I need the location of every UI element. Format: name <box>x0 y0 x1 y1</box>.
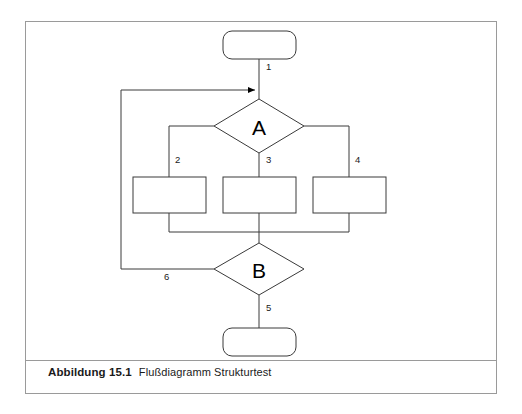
merge-right-path <box>259 213 349 232</box>
figure-frame: 1 6 A 2 3 4 <box>25 21 497 394</box>
edge-4-path <box>304 126 349 177</box>
node-decision-b-label: B <box>252 259 266 282</box>
node-decision-a-label: A <box>252 116 266 139</box>
node-process-right <box>313 177 386 213</box>
figure-caption: Abbildung 15.1Flußdiagramm Strukturtest <box>48 366 272 378</box>
edge-2-path <box>169 126 214 177</box>
node-end <box>223 328 296 356</box>
node-start <box>223 31 296 59</box>
figure-caption-text: Flußdiagramm Strukturtest <box>139 366 272 378</box>
figure-caption-label: Abbildung 15.1 <box>48 366 132 378</box>
node-process-left <box>133 177 206 213</box>
edge-3-label: 3 <box>266 154 271 165</box>
edge-4-label: 4 <box>355 154 360 165</box>
caption-divider <box>26 360 496 361</box>
edge-2-label: 2 <box>175 154 180 165</box>
node-process-middle <box>223 177 296 213</box>
flowchart-diagram: 1 6 A 2 3 4 <box>26 22 496 360</box>
edge-6-label: 6 <box>164 271 169 282</box>
merge-left-path <box>169 213 259 232</box>
edge-1-label: 1 <box>266 61 271 72</box>
edge-5-label: 5 <box>266 302 271 313</box>
